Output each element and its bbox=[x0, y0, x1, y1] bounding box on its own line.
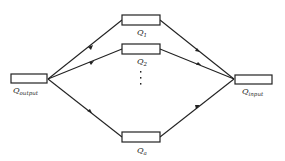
branch1-label: Q1 bbox=[137, 28, 147, 38]
branch2-box bbox=[122, 44, 160, 54]
branchN-label: Qa bbox=[137, 146, 147, 156]
flow-diagram: Qoutput Qinput Q1 Q2 Qa bbox=[0, 0, 285, 161]
edge-output-branchN bbox=[48, 79, 122, 137]
branch1-box bbox=[122, 15, 160, 25]
input-node-box bbox=[235, 75, 272, 84]
branch2-label: Q2 bbox=[137, 57, 148, 67]
edge-output-branch2 bbox=[48, 49, 122, 79]
input-node-label: Qinput bbox=[242, 87, 264, 98]
edge-output-branch1 bbox=[48, 20, 122, 79]
output-node-box bbox=[11, 74, 47, 83]
output-node-label: Qoutput bbox=[13, 86, 39, 97]
branchN-box bbox=[122, 132, 160, 142]
ellipsis-icon bbox=[140, 71, 141, 85]
